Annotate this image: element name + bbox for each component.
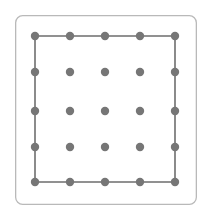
peg-r1-c2[interactable] bbox=[101, 68, 109, 76]
peg-r0-c4[interactable] bbox=[171, 32, 179, 40]
peg-r1-c4[interactable] bbox=[171, 68, 179, 76]
peg-r4-c0[interactable] bbox=[31, 178, 39, 186]
peg-r2-c2[interactable] bbox=[101, 107, 109, 115]
peg-r4-c1[interactable] bbox=[66, 178, 74, 186]
peg-r3-c0[interactable] bbox=[31, 143, 39, 151]
peg-r0-c1[interactable] bbox=[66, 32, 74, 40]
peg-r4-c3[interactable] bbox=[136, 178, 144, 186]
peg-r3-c3[interactable] bbox=[136, 143, 144, 151]
peg-r3-c1[interactable] bbox=[66, 143, 74, 151]
peg-r4-c4[interactable] bbox=[171, 178, 179, 186]
peg-r2-c0[interactable] bbox=[31, 107, 39, 115]
peg-r3-c4[interactable] bbox=[171, 143, 179, 151]
peg-r0-c3[interactable] bbox=[136, 32, 144, 40]
peg-r1-c0[interactable] bbox=[31, 68, 39, 76]
geoboard-canvas bbox=[0, 0, 211, 217]
peg-r0-c2[interactable] bbox=[101, 32, 109, 40]
peg-r3-c2[interactable] bbox=[101, 143, 109, 151]
peg-r1-c1[interactable] bbox=[66, 68, 74, 76]
geoboard-figure bbox=[0, 0, 211, 217]
peg-r4-c2[interactable] bbox=[101, 178, 109, 186]
peg-r1-c3[interactable] bbox=[136, 68, 144, 76]
peg-r2-c4[interactable] bbox=[171, 107, 179, 115]
peg-r0-c0[interactable] bbox=[31, 32, 39, 40]
peg-r2-c3[interactable] bbox=[136, 107, 144, 115]
peg-r2-c1[interactable] bbox=[66, 107, 74, 115]
